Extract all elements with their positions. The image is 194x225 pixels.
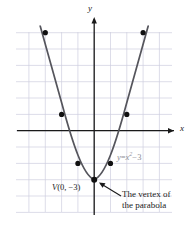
point-neg1-neg2 (75, 161, 80, 166)
point-3-6 (141, 30, 146, 35)
axis-label-x: x (180, 124, 184, 133)
vertex-callout-text: The vertex of the parabola (122, 189, 170, 211)
callout-arrow (99, 183, 121, 196)
axes (17, 19, 174, 215)
parabola-figure: y x y=x2−3 V(0, −3) The vertex of the pa… (0, 0, 194, 225)
callout-line-2: the parabola (122, 200, 170, 211)
point-neg2-1 (59, 112, 64, 117)
callout-line-1: The vertex of (122, 189, 170, 200)
axis-label-y: y (88, 4, 92, 13)
equation-label: y=x2−3 (117, 151, 141, 161)
x-axis-arrow (168, 128, 174, 133)
point-2-1 (124, 112, 129, 117)
point-neg3-6 (43, 30, 48, 35)
point-1-neg2 (108, 161, 113, 166)
vertex-label: V(0, −3) (52, 183, 80, 192)
point-vertex-0-neg3 (91, 177, 97, 183)
vertex-coords: (0, −3) (57, 182, 80, 192)
y-axis-arrow (92, 17, 97, 24)
equation-constant: 3 (137, 152, 141, 162)
